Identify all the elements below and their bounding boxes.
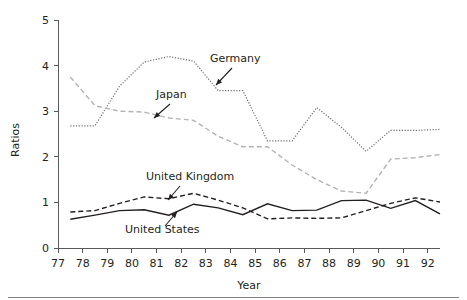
- x-tick-label: 78: [76, 257, 90, 270]
- x-tick-label: 82: [174, 257, 188, 270]
- x-tick-label: 92: [421, 257, 435, 270]
- chart-background: [0, 0, 467, 300]
- x-tick-label: 83: [199, 257, 213, 270]
- x-tick-label: 77: [51, 257, 65, 270]
- x-tick-label: 90: [371, 257, 385, 270]
- y-tick-label: 5: [42, 14, 49, 27]
- x-tick-label: 81: [150, 257, 164, 270]
- x-tick-label: 84: [224, 257, 238, 270]
- x-tick-label: 85: [248, 257, 262, 270]
- line-chart: 012345 77787980818283848586878889909192 …: [0, 0, 467, 300]
- x-tick-label: 89: [347, 257, 361, 270]
- y-tick-label: 0: [42, 242, 49, 255]
- x-tick-label: 80: [125, 257, 139, 270]
- annotation-label-japan: Japan: [155, 88, 187, 101]
- y-tick-label: 2: [42, 151, 49, 164]
- chart-figure: 012345 77787980818283848586878889909192 …: [0, 0, 467, 300]
- y-tick-label: 1: [42, 196, 49, 209]
- x-tick-label: 91: [396, 257, 410, 270]
- annotation-label-united-states: United States: [125, 223, 200, 236]
- x-tick-label: 88: [322, 257, 336, 270]
- annotation-label-united-kingdom: United Kingdom: [146, 170, 234, 183]
- y-tick-label: 3: [42, 105, 49, 118]
- x-tick-label: 79: [100, 257, 114, 270]
- y-tick-label: 4: [42, 60, 49, 73]
- annotation-label-germany: Germany: [210, 52, 261, 65]
- x-tick-label: 87: [297, 257, 311, 270]
- x-axis-title: Year: [236, 279, 261, 292]
- y-axis-title: Ratios: [9, 123, 22, 157]
- x-tick-label: 86: [273, 257, 287, 270]
